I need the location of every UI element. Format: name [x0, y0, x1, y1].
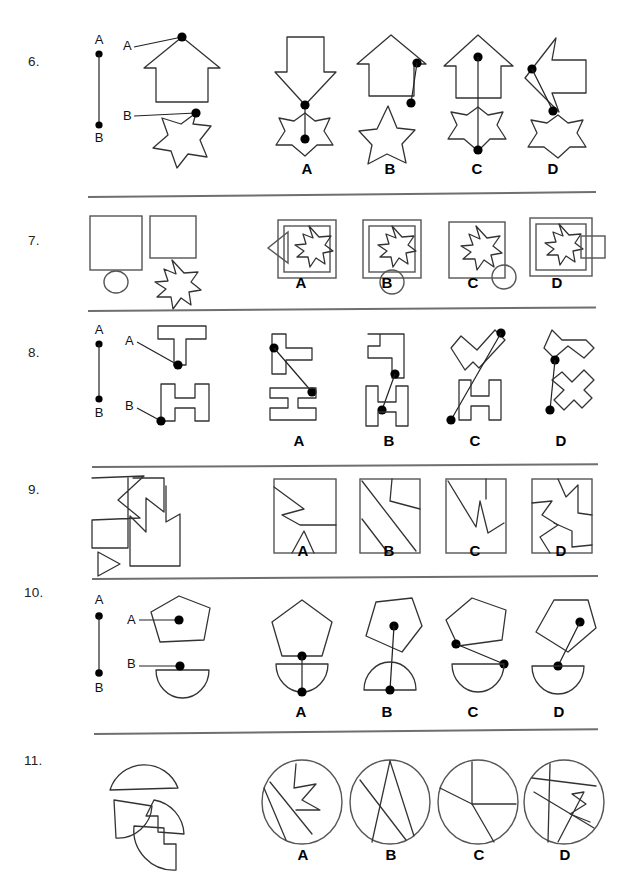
- shape-polygon-piece-2: [130, 478, 180, 566]
- cut-line-diagonal: [270, 782, 312, 834]
- cut-line-1: [532, 778, 596, 786]
- question-number-9: 9.: [28, 482, 40, 497]
- shape-square-outer: [278, 220, 336, 278]
- q8-option-label-a[interactable]: A: [284, 432, 314, 449]
- shape-semicircle-down: [452, 664, 504, 692]
- shape-pentagon: [536, 600, 596, 652]
- q7-option-label-d[interactable]: D: [542, 274, 572, 291]
- shape-letter-t-tilted: [544, 330, 594, 358]
- q11-option-d-figure[interactable]: [522, 758, 608, 850]
- shape-arrow-down: [275, 37, 336, 105]
- q11-option-label-d[interactable]: D: [550, 846, 580, 863]
- q6-option-label-d[interactable]: D: [538, 160, 568, 177]
- question-number-11: 11.: [24, 753, 42, 768]
- shape-square-large: [90, 216, 142, 270]
- q6-option-d-figure[interactable]: [520, 33, 600, 155]
- q11-prompt: [90, 748, 240, 873]
- cut-line-2: [548, 764, 550, 842]
- shape-star-6: [448, 107, 506, 151]
- shape-star-6: [153, 113, 211, 168]
- q6-option-a-figure[interactable]: [272, 35, 342, 155]
- connector-dot-bottom: [406, 98, 415, 107]
- q10-option-b-figure[interactable]: [352, 594, 428, 702]
- shape-letter-h-tilted: [552, 370, 594, 410]
- shape-circle-corner: [492, 265, 516, 289]
- q8-option-d-figure[interactable]: [528, 324, 610, 429]
- shape-triangle-piece: [98, 552, 120, 576]
- shape-star-8: [378, 226, 416, 267]
- connector-dot-bottom: [377, 405, 386, 414]
- q11-option-label-c[interactable]: C: [464, 846, 494, 863]
- q6-prompt: A B A B: [85, 32, 240, 157]
- shape-star-8: [295, 226, 333, 267]
- prompt-label-a: A: [95, 592, 104, 607]
- marker-dot-a: [173, 360, 182, 369]
- q6-option-c-figure[interactable]: [442, 33, 517, 158]
- q6-option-label-a[interactable]: A: [292, 160, 322, 177]
- cut-line-diagonal: [362, 481, 416, 551]
- q10-option-label-a[interactable]: A: [286, 703, 316, 720]
- q9-option-label-c[interactable]: C: [460, 542, 490, 559]
- q11-option-a-figure[interactable]: [260, 758, 346, 850]
- shape-star-8: [155, 260, 201, 309]
- cut-line-lower: [472, 804, 494, 842]
- prompt-label-a: A: [95, 322, 104, 337]
- q11-option-label-b[interactable]: B: [376, 846, 406, 863]
- q10-option-label-b[interactable]: B: [372, 703, 402, 720]
- q8-option-a-figure[interactable]: [266, 330, 341, 430]
- q11-option-c-figure[interactable]: [436, 758, 522, 850]
- q11-option-label-a[interactable]: A: [288, 846, 318, 863]
- q6-option-label-c[interactable]: C: [462, 160, 492, 177]
- q7-option-label-c[interactable]: C: [458, 274, 488, 291]
- worksheet-page: 6. A B A B A B C: [0, 0, 619, 881]
- q9-option-label-b[interactable]: B: [374, 542, 404, 559]
- shape-arc-piece-1: [110, 765, 178, 790]
- q6-option-label-b[interactable]: B: [375, 160, 405, 177]
- connector-dot-bottom: [473, 145, 482, 154]
- q10-option-c-figure[interactable]: [438, 594, 516, 698]
- marker-label-a: A: [127, 612, 136, 627]
- connector-dot-bottom: [307, 387, 316, 396]
- shape-semicircle: [156, 670, 209, 698]
- q9-option-label-a[interactable]: A: [288, 542, 318, 559]
- prompt-dot-b: [95, 121, 102, 128]
- shape-star-5: [359, 106, 415, 164]
- cut-line-upper: [274, 487, 336, 525]
- connector-dot-top: [300, 100, 309, 109]
- shape-arc-piece-3: [146, 800, 184, 834]
- q9-option-label-d[interactable]: D: [546, 542, 576, 559]
- cut-line-corner: [390, 479, 420, 509]
- shape-letter-h: [161, 384, 209, 421]
- q8-option-label-d[interactable]: D: [546, 432, 576, 449]
- separator-rule-5: [94, 728, 598, 735]
- shape-arc-piece-2: [114, 800, 152, 838]
- separator-rule-4: [92, 575, 598, 580]
- q8-option-label-c[interactable]: C: [460, 432, 490, 449]
- marker-label-b: B: [123, 108, 132, 123]
- q11-option-b-figure[interactable]: [348, 758, 434, 850]
- question-number-8: 8.: [28, 345, 40, 360]
- connector-line: [532, 69, 553, 111]
- prompt-label-a: A: [95, 32, 104, 47]
- q10-option-a-figure[interactable]: [266, 596, 338, 702]
- cut-line-zigzag: [294, 764, 320, 810]
- question-number-10: 10.: [24, 585, 43, 600]
- q8-option-c-figure[interactable]: [443, 326, 523, 434]
- shape-pentagon: [272, 600, 332, 656]
- connector-line: [390, 626, 394, 690]
- cut-line-zigzag: [448, 481, 504, 533]
- cut-line-zigzag: [558, 792, 590, 842]
- cut-line-2: [372, 761, 390, 842]
- q10-option-label-d[interactable]: D: [544, 703, 574, 720]
- prompt-dot-b: [95, 395, 102, 402]
- q6-option-b-figure[interactable]: [355, 33, 430, 155]
- q10-option-d-figure[interactable]: [524, 594, 602, 700]
- marker-leader-a: [137, 342, 178, 365]
- q7-option-label-a[interactable]: A: [286, 274, 316, 291]
- q10-option-label-c[interactable]: C: [458, 703, 488, 720]
- shape-circle: [350, 760, 430, 844]
- q8-option-b-figure[interactable]: [358, 330, 430, 430]
- q7-option-label-b[interactable]: B: [372, 274, 402, 291]
- q8-option-label-b[interactable]: B: [374, 432, 404, 449]
- marker-label-a: A: [125, 333, 134, 348]
